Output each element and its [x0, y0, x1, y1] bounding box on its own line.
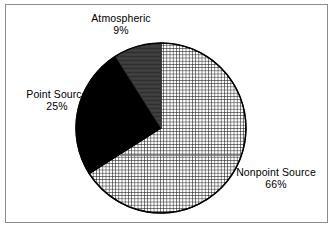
pie-label-point-source: Point Source 25%	[4, 88, 110, 113]
pie-label-point-source-name: Point Source	[4, 88, 110, 100]
pie-label-atmospheric-name: Atmospheric	[62, 12, 180, 24]
pie-label-point-source-percent: 25%	[4, 100, 110, 112]
pie-label-atmospheric: Atmospheric 9%	[62, 12, 180, 37]
pie-label-nonpoint-source-percent: 66%	[218, 178, 334, 190]
pie-label-atmospheric-percent: 9%	[62, 24, 180, 36]
pie-label-nonpoint-source: Nonpoint Source 66%	[218, 166, 334, 191]
pie-label-nonpoint-source-name: Nonpoint Source	[218, 166, 334, 178]
pie-chart-figure: Atmospheric 9% Point Source 25% Nonpoint…	[0, 0, 335, 231]
